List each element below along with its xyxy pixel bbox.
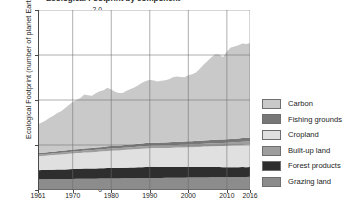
x-axis-tick-mark — [73, 190, 74, 193]
legend-swatch — [262, 161, 281, 171]
x-axis-tick-label: 2010 — [215, 192, 239, 199]
legend-swatch — [262, 146, 281, 156]
legend-swatch — [262, 114, 281, 124]
legend-item-label: Cropland — [288, 131, 319, 139]
chart-legend: CarbonFishing groundsCroplandBuilt-up la… — [262, 96, 354, 190]
x-axis-tick-label: 1980 — [99, 192, 123, 199]
x-axis-tick-label: 2000 — [176, 192, 200, 199]
x-axis-tick-label: 2016 — [238, 192, 262, 199]
legend-item[interactable]: Built-up land — [262, 143, 354, 159]
x-axis-tick-label: 1961 — [26, 192, 50, 199]
x-axis-tick-mark — [250, 190, 251, 193]
x-axis-tick-mark — [188, 190, 189, 193]
x-axis-tick-mark — [111, 190, 112, 193]
area-carbon — [38, 43, 250, 153]
legend-item[interactable]: Forest products — [262, 158, 354, 174]
legend-item-label: Fishing grounds — [288, 116, 342, 124]
stacked-area-chart — [38, 10, 250, 190]
y-axis-label: Ecological Footprint (number of planet E… — [24, 0, 33, 155]
legend-swatch — [262, 130, 281, 140]
legend-swatch — [262, 177, 281, 187]
legend-item-label: Carbon — [288, 100, 313, 108]
plot-area — [38, 10, 250, 190]
legend-item-label: Built-up land — [288, 147, 330, 155]
x-axis-tick-mark — [150, 190, 151, 193]
legend-item[interactable]: Cropland — [262, 127, 354, 143]
x-axis-tick-mark — [38, 190, 39, 193]
y-axis-line — [38, 10, 39, 190]
x-axis-tick-mark — [227, 190, 228, 193]
chart-root: Ecological Footprint by component Ecolog… — [0, 0, 354, 208]
legend-item[interactable]: Grazing land — [262, 174, 354, 190]
legend-item-label: Grazing land — [288, 178, 331, 186]
x-axis-tick-label: 1970 — [61, 192, 85, 199]
legend-item[interactable]: Carbon — [262, 96, 354, 112]
legend-swatch — [262, 99, 281, 109]
legend-item-label: Forest products — [288, 162, 341, 170]
chart-title: Ecological Footprint by component — [46, 0, 246, 3]
x-axis-tick-label: 1990 — [138, 192, 162, 199]
legend-item[interactable]: Fishing grounds — [262, 112, 354, 128]
